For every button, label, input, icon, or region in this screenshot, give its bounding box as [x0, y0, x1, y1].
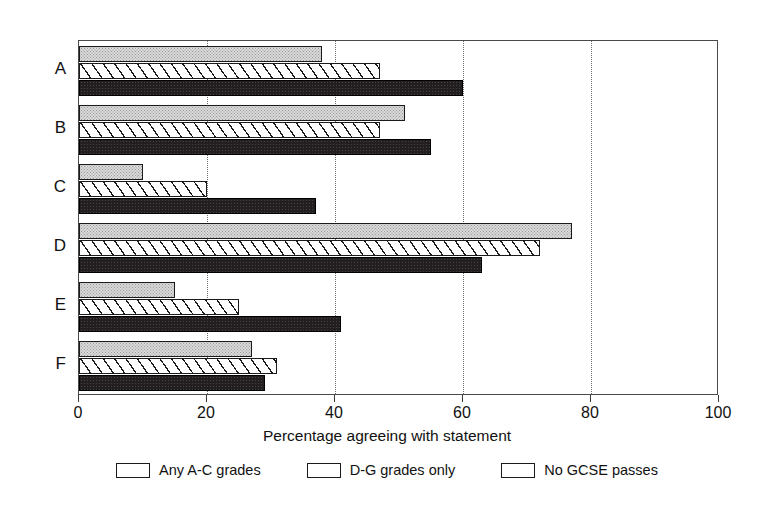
x-tick-60 — [462, 395, 463, 402]
y-axis-label-C: C — [26, 177, 66, 197]
legend-label-1: D-G grades only — [350, 462, 456, 478]
bar-A-series-2 — [79, 80, 463, 96]
bar-A-series-0 — [79, 46, 322, 62]
bar-C-series-1 — [79, 181, 207, 197]
x-tick-label-0: 0 — [48, 404, 108, 422]
x-tick-20 — [206, 395, 207, 402]
y-axis-label-F: F — [26, 354, 66, 374]
bar-C-series-0 — [79, 164, 143, 180]
chart-legend: Any A-C gradesD-G grades onlyNo GCSE pas… — [0, 462, 774, 478]
bar-F-series-2 — [79, 375, 265, 391]
x-axis-title: Percentage agreeing with statement — [0, 427, 774, 445]
bar-D-series-1 — [79, 240, 540, 256]
x-tick-label-60: 60 — [432, 404, 492, 422]
x-tick-0 — [78, 395, 79, 402]
bar-F-series-0 — [79, 341, 252, 357]
bar-C-series-2 — [79, 198, 316, 214]
legend-swatch-icon-1 — [307, 463, 341, 478]
bar-chart: ABCDEF 020406080100 Percentage agreeing … — [0, 0, 774, 506]
x-tick-label-40: 40 — [304, 404, 364, 422]
bar-E-series-1 — [79, 299, 239, 315]
legend-item-0: Any A-C grades — [116, 462, 261, 478]
x-tick-label-20: 20 — [176, 404, 236, 422]
bar-E-series-0 — [79, 282, 175, 298]
x-tick-40 — [334, 395, 335, 402]
legend-swatch-icon-2 — [501, 463, 535, 478]
y-axis-label-E: E — [26, 295, 66, 315]
legend-label-2: No GCSE passes — [544, 462, 658, 478]
legend-item-2: No GCSE passes — [501, 462, 658, 478]
x-tick-label-100: 100 — [688, 404, 748, 422]
bar-E-series-2 — [79, 316, 341, 332]
x-tick-100 — [718, 395, 719, 402]
bar-B-series-0 — [79, 105, 405, 121]
y-axis-label-B: B — [26, 118, 66, 138]
y-axis-label-A: A — [26, 59, 66, 79]
gridline-60 — [463, 41, 464, 394]
gridline-80 — [591, 41, 592, 394]
bar-D-series-0 — [79, 223, 572, 239]
y-axis-label-D: D — [26, 236, 66, 256]
x-tick-80 — [590, 395, 591, 402]
legend-label-0: Any A-C grades — [159, 462, 261, 478]
legend-item-1: D-G grades only — [307, 462, 456, 478]
bar-B-series-2 — [79, 139, 431, 155]
x-tick-label-80: 80 — [560, 404, 620, 422]
bar-D-series-2 — [79, 257, 482, 273]
bar-F-series-1 — [79, 358, 277, 374]
legend-swatch-icon-0 — [116, 463, 150, 478]
plot-area — [78, 40, 718, 395]
bar-A-series-1 — [79, 63, 380, 79]
bar-B-series-1 — [79, 122, 380, 138]
